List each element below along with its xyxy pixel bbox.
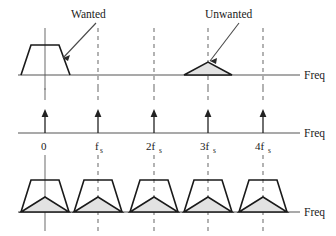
panel-impulse-train: 0 f s 2f s 3f s 4f s Freq — [18, 88, 325, 155]
impulse-arrowhead-2fs — [151, 109, 158, 117]
tick-label-2fs-main: 2f — [146, 140, 156, 152]
wanted-label: Wanted — [71, 8, 106, 20]
tick-label-4fs-sub: s — [268, 146, 271, 155]
tick-label-3fs-main: 3f — [200, 140, 210, 152]
replica-3fs-alias-triangle — [184, 197, 232, 212]
freq-axis-label-panel3: Freq — [304, 206, 325, 219]
tick-label-3fs-sub: s — [213, 146, 216, 155]
tick-label-3fs: 3f s — [200, 140, 216, 155]
panel-input-spectrum: Wanted Unwanted Freq — [18, 8, 325, 90]
tick-label-fs: f s — [95, 140, 103, 155]
unwanted-pointer-line — [210, 23, 239, 61]
impulse-4fs — [260, 109, 267, 133]
replica-2fs-alias-triangle — [130, 197, 178, 212]
impulse-2fs — [151, 109, 158, 133]
impulse-arrowhead-3fs — [205, 109, 212, 117]
freq-axis-label-panel1: Freq — [304, 69, 325, 82]
tick-label-4fs: 4f s — [255, 140, 271, 155]
unwanted-label: Unwanted — [205, 8, 253, 20]
figure-container: Wanted Unwanted Freq — [0, 0, 336, 236]
impulse-fs — [95, 109, 102, 133]
impulse-arrowhead-fs — [95, 109, 102, 117]
impulse-arrowhead-0 — [42, 109, 49, 117]
impulse-3fs — [205, 109, 212, 133]
impulse-arrowhead-4fs — [260, 109, 267, 117]
tick-label-0: 0 — [41, 140, 47, 152]
tick-label-fs-sub: s — [100, 146, 103, 155]
wanted-pointer-line — [63, 23, 96, 58]
panel-sampled-output: Freq — [18, 155, 325, 231]
tick-label-0-main: 0 — [41, 140, 47, 152]
gridlines-panel1 — [45, 28, 263, 90]
freq-axis-label-panel2: Freq — [304, 127, 325, 140]
replica-0-alias-triangle — [21, 197, 69, 212]
impulse-0 — [42, 109, 49, 133]
replica-fs-alias-triangle — [74, 197, 122, 212]
tick-label-2fs-sub: s — [159, 146, 162, 155]
gridlines-panel2-top — [45, 88, 263, 100]
tick-label-fs-main: f — [95, 140, 99, 152]
replica-4fs-alias-triangle — [239, 197, 287, 212]
sampling-aliasing-diagram: Wanted Unwanted Freq — [0, 0, 336, 236]
tick-label-2fs: 2f s — [146, 140, 162, 155]
unwanted-spectrum-triangle — [184, 62, 232, 75]
gridlines-panel3 — [45, 155, 263, 231]
tick-label-4fs-main: 4f — [255, 140, 265, 152]
